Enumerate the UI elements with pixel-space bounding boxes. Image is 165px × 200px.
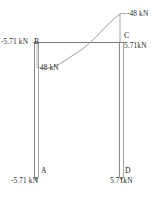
column-ab (35, 43, 39, 178)
portal-frame-diagram: -5.71 kN B -48 kN C 5.71kN 48 kN A -5.71… (0, 0, 165, 200)
node-label-d: D (125, 167, 131, 175)
column-dc (120, 43, 124, 178)
label-a-force: -5.71 kN (11, 177, 38, 184)
node-label-b: B (34, 38, 39, 46)
label-b-force: -5.71 kN (1, 38, 28, 45)
label-top-right-moment: -48 kN (127, 10, 148, 17)
frame-drawing (0, 0, 165, 200)
node-label-a: A (41, 167, 47, 175)
node-label-c: C (124, 32, 129, 40)
label-c-force: 5.71kN (124, 42, 147, 49)
label-d-force: 5.71kN (110, 177, 133, 184)
bending-moment-curve (37, 14, 120, 68)
label-mid-beam-moment: 48 kN (40, 64, 59, 71)
